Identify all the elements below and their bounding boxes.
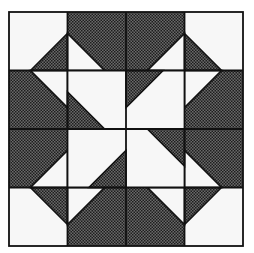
- quilt-figure: [0, 0, 254, 253]
- quilt-pattern: [0, 0, 254, 253]
